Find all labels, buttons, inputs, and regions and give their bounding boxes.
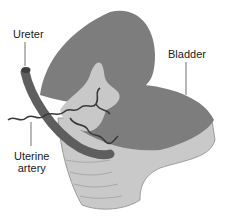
label-bladder: Bladder [168, 48, 206, 60]
label-uterine-line1: Uterine [14, 150, 49, 162]
ureter-opening [22, 67, 31, 73]
label-uterine-artery: Uterine artery [14, 150, 49, 174]
label-ureter: Ureter [13, 28, 44, 40]
label-uterine-line2: artery [14, 162, 49, 174]
anatomy-figure: Ureter Bladder Uterine artery [0, 0, 226, 217]
